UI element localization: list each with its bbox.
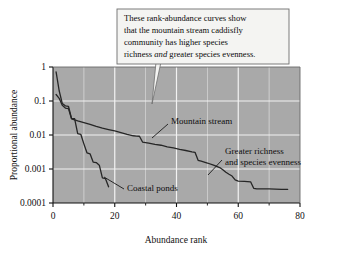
y-tick-label: 0.001 [25, 164, 47, 174]
x-tick-label: 0 [51, 211, 56, 221]
callout-line-4: richness and greater species evenness. [124, 49, 256, 59]
y-tick-label: 0.0001 [20, 198, 46, 208]
x-tick-label: 20 [110, 211, 120, 221]
x-axis-ticks: 020406080 [51, 203, 305, 221]
y-axis-title: Proportional abundance [9, 90, 19, 181]
greater-richness-label-line1: Greater richness [225, 146, 284, 156]
y-tick-label: 0.1 [34, 96, 46, 106]
callout-line-4-emphasis: and [154, 49, 168, 59]
callout-line-4-part-a: richness [124, 49, 154, 59]
callout-box: These rank-abundance curves show that th… [117, 9, 289, 64]
x-tick-label: 60 [234, 211, 244, 221]
y-tick-label: 0.01 [29, 130, 46, 140]
callout-line-2: that the mountain stream caddisfly [124, 25, 244, 35]
x-axis-title: Abundance rank [145, 235, 208, 245]
chart-canvas: 10.10.010.0010.0001 020406080 Abundance … [0, 0, 338, 263]
coastal-ponds-label: Coastal ponds [127, 183, 178, 193]
x-tick-label: 80 [295, 211, 305, 221]
callout-line-4-part-b: greater species evenness. [167, 49, 255, 59]
greater-richness-label-line2: and species evenness [225, 157, 301, 167]
callout-line-1: These rank-abundance curves show [124, 13, 247, 23]
callout-line-3: community has higher species [124, 37, 228, 47]
mountain-stream-label: Mountain stream [171, 116, 232, 126]
y-tick-label: 1 [41, 62, 46, 72]
y-axis-ticks: 10.10.010.0010.0001 [20, 62, 53, 208]
x-tick-label: 40 [172, 211, 182, 221]
rank-abundance-figure: 10.10.010.0010.0001 020406080 Abundance … [0, 0, 338, 263]
